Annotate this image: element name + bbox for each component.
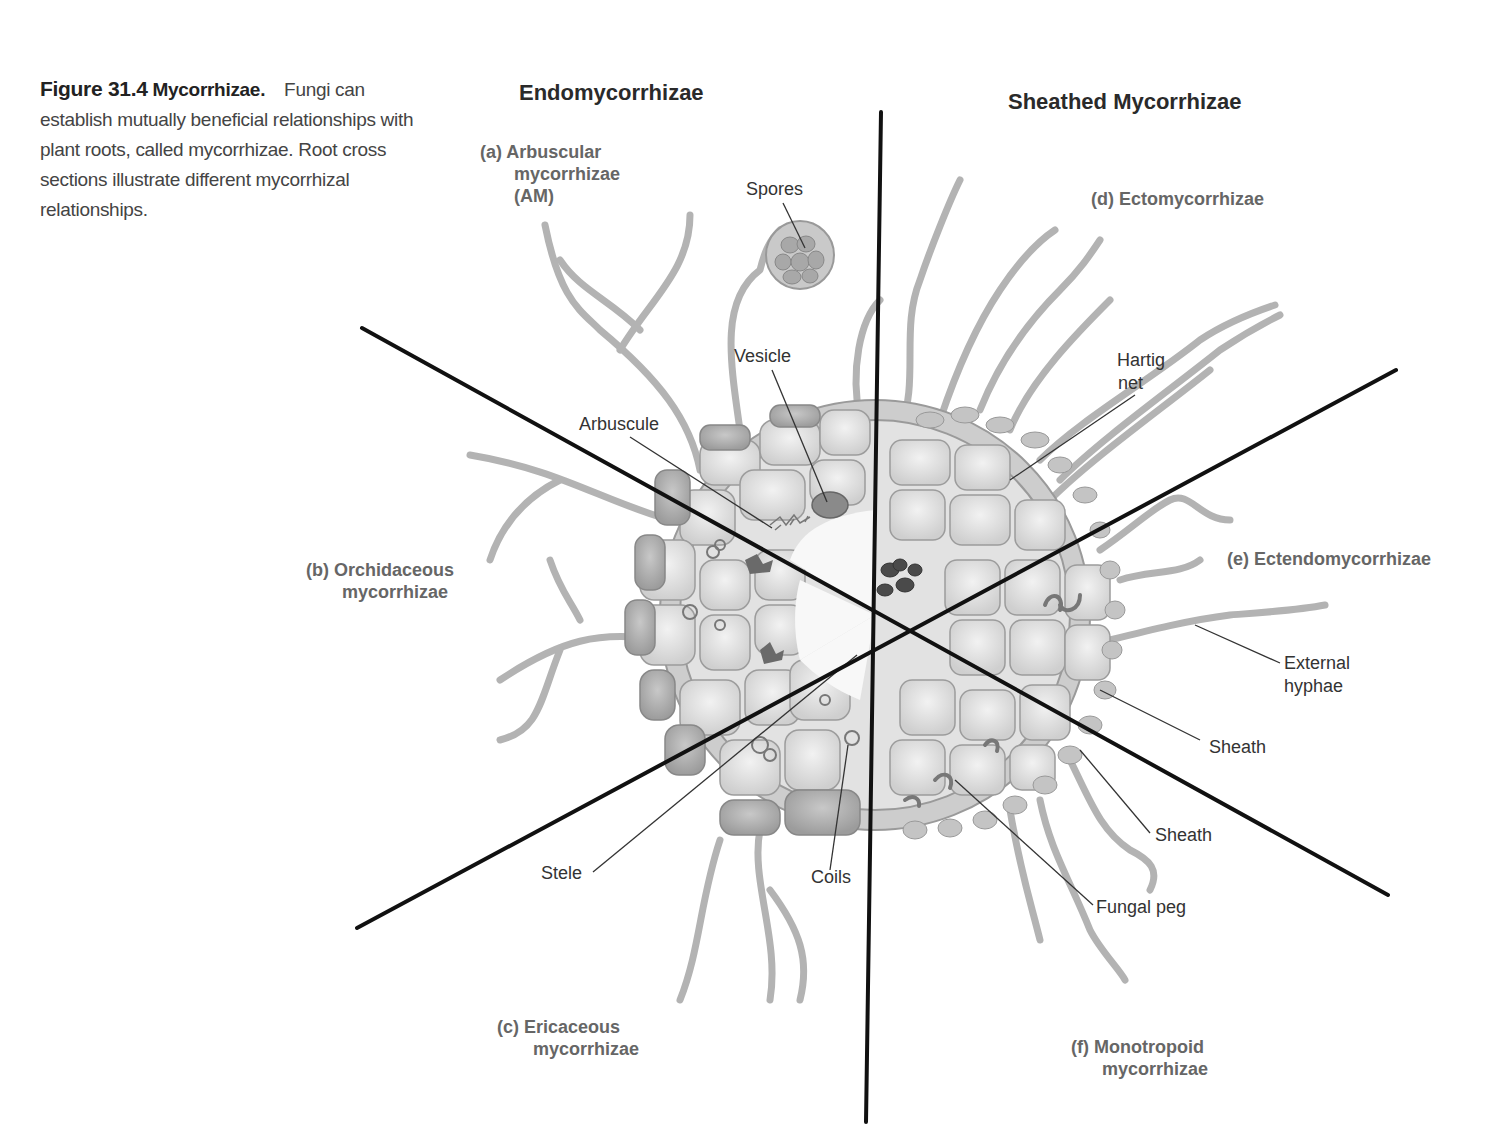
vesicle bbox=[812, 492, 848, 518]
section-label-c: (c) Ericaceous mycorrhizae bbox=[497, 1016, 639, 1060]
label-spores: Spores bbox=[746, 178, 803, 201]
section-label-a: (a) Arbuscular mycorrhizae (AM) bbox=[480, 141, 620, 207]
label-stele: Stele bbox=[541, 862, 582, 885]
section-label-d: (d) Ectomycorrhizae bbox=[1091, 188, 1264, 210]
label-vesicle: Vesicle bbox=[734, 345, 791, 368]
figure-caption: Figure 31.4 Mycorrhizae. Fungi can estab… bbox=[40, 74, 440, 225]
label-hartig-net: Hartig net bbox=[1117, 349, 1165, 395]
label-sheath-f: Sheath bbox=[1155, 824, 1212, 847]
section-label-f: (f) Monotropoid mycorrhizae bbox=[1071, 1036, 1208, 1080]
label-external-hyphae: External hyphae bbox=[1284, 652, 1350, 698]
label-fungal-peg: Fungal peg bbox=[1096, 896, 1186, 919]
label-sheath-e: Sheath bbox=[1209, 736, 1266, 759]
header-endomycorrhizae: Endomycorrhizae bbox=[519, 80, 704, 106]
header-sheathed-mycorrhizae: Sheathed Mycorrhizae bbox=[1008, 89, 1242, 115]
figure-caption-body: Fungi can establish mutually beneficial … bbox=[40, 79, 413, 220]
figure-number: Figure 31.4 bbox=[40, 77, 148, 100]
label-arbuscule: Arbuscule bbox=[579, 413, 659, 436]
section-label-e: (e) Ectendomycorrhizae bbox=[1227, 548, 1431, 570]
figure-title: Mycorrhizae. bbox=[153, 79, 266, 100]
label-coils: Coils bbox=[811, 866, 851, 889]
section-label-b: (b) Orchidaceous mycorrhizae bbox=[306, 559, 454, 603]
spore-sac bbox=[766, 221, 834, 289]
